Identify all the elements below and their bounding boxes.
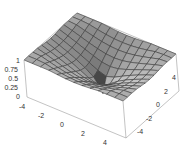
z-tick-label: 1 [16,57,20,64]
x-tick-label: 0 [60,121,64,128]
x-tick-label: -2 [38,112,44,119]
x-tick-label: -4 [19,103,25,110]
y-tick-label: 2 [164,88,168,95]
y-tick-label: -4 [137,128,143,135]
box-edge [123,101,126,138]
y-tick-label: -2 [146,115,152,122]
z-tick-label: 0.25 [4,84,18,91]
box-edge [24,60,27,97]
z-tick-label: 0.75 [4,66,18,73]
y-tick-label: 0 [156,101,160,108]
box-edge [126,91,179,138]
y-tick-label: 4 [172,74,176,81]
z-tick-label: 0.5 [8,75,18,82]
surface-mesh [24,13,176,101]
z-tick-label: 0 [16,93,20,100]
box-edge [176,54,179,91]
x-tick-label: 2 [81,130,85,137]
surface-plot [0,0,186,148]
x-tick-label: 4 [103,139,107,146]
